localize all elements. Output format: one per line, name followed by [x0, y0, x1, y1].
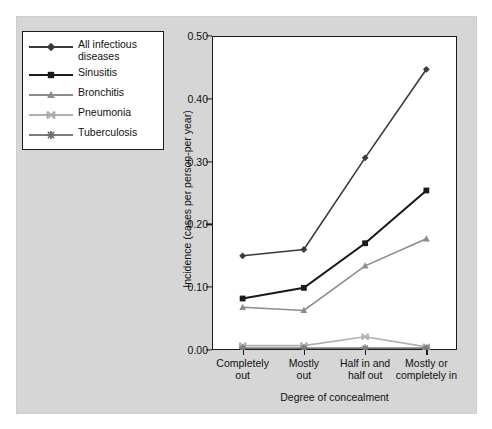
x-axis-tick-mark [365, 350, 366, 355]
series-bronchitis [239, 235, 430, 313]
y-axis-tick-label: 0.00 [174, 344, 208, 356]
y-axis-tick-mark [206, 35, 212, 36]
series-line [243, 69, 427, 256]
y-axis-tick-mark [206, 287, 212, 288]
y-axis-tick-mark [206, 98, 212, 99]
x-axis-tick-mark [426, 350, 427, 355]
series-line [243, 190, 427, 298]
x-axis-tick-mark [243, 350, 244, 355]
x-axis-title: Degree of concealment [212, 391, 457, 403]
x-axis-tick-label: Mostly orcompletely in [383, 357, 469, 381]
y-axis-tick-label: 0.30 [174, 156, 208, 168]
chart-figure: All infectious diseases Sinusitis Bronch… [16, 16, 477, 414]
y-axis-tick-labels: 0.000.100.200.300.400.50 [172, 36, 208, 350]
series-all-infectious-diseases [239, 66, 430, 259]
series-line [243, 239, 427, 311]
y-axis-tick-mark [206, 349, 212, 350]
y-axis-tick-mark [206, 161, 212, 162]
data-point-square-icon [362, 240, 368, 246]
data-point-triangle-icon [423, 235, 430, 241]
data-point-diamond-icon [239, 252, 246, 259]
data-point-square-icon [301, 285, 307, 291]
plot-wrapper: Incidence (cases per person-per year) 0.… [17, 17, 476, 413]
y-axis-tick-label: 0.40 [174, 93, 208, 105]
series-line [243, 337, 427, 347]
data-point-square-icon [240, 296, 246, 302]
y-axis-tick-mark [206, 224, 212, 225]
y-axis-tick-label: 0.50 [174, 30, 208, 42]
y-axis-tick-label: 0.20 [174, 218, 208, 230]
data-point-square-icon [423, 188, 429, 194]
y-axis-tick-label: 0.10 [174, 281, 208, 293]
data-series-layer [212, 36, 457, 350]
y-axis-title-holder: Incidence (cases per person-per year) [158, 17, 172, 369]
x-axis-tick-mark [304, 350, 305, 355]
